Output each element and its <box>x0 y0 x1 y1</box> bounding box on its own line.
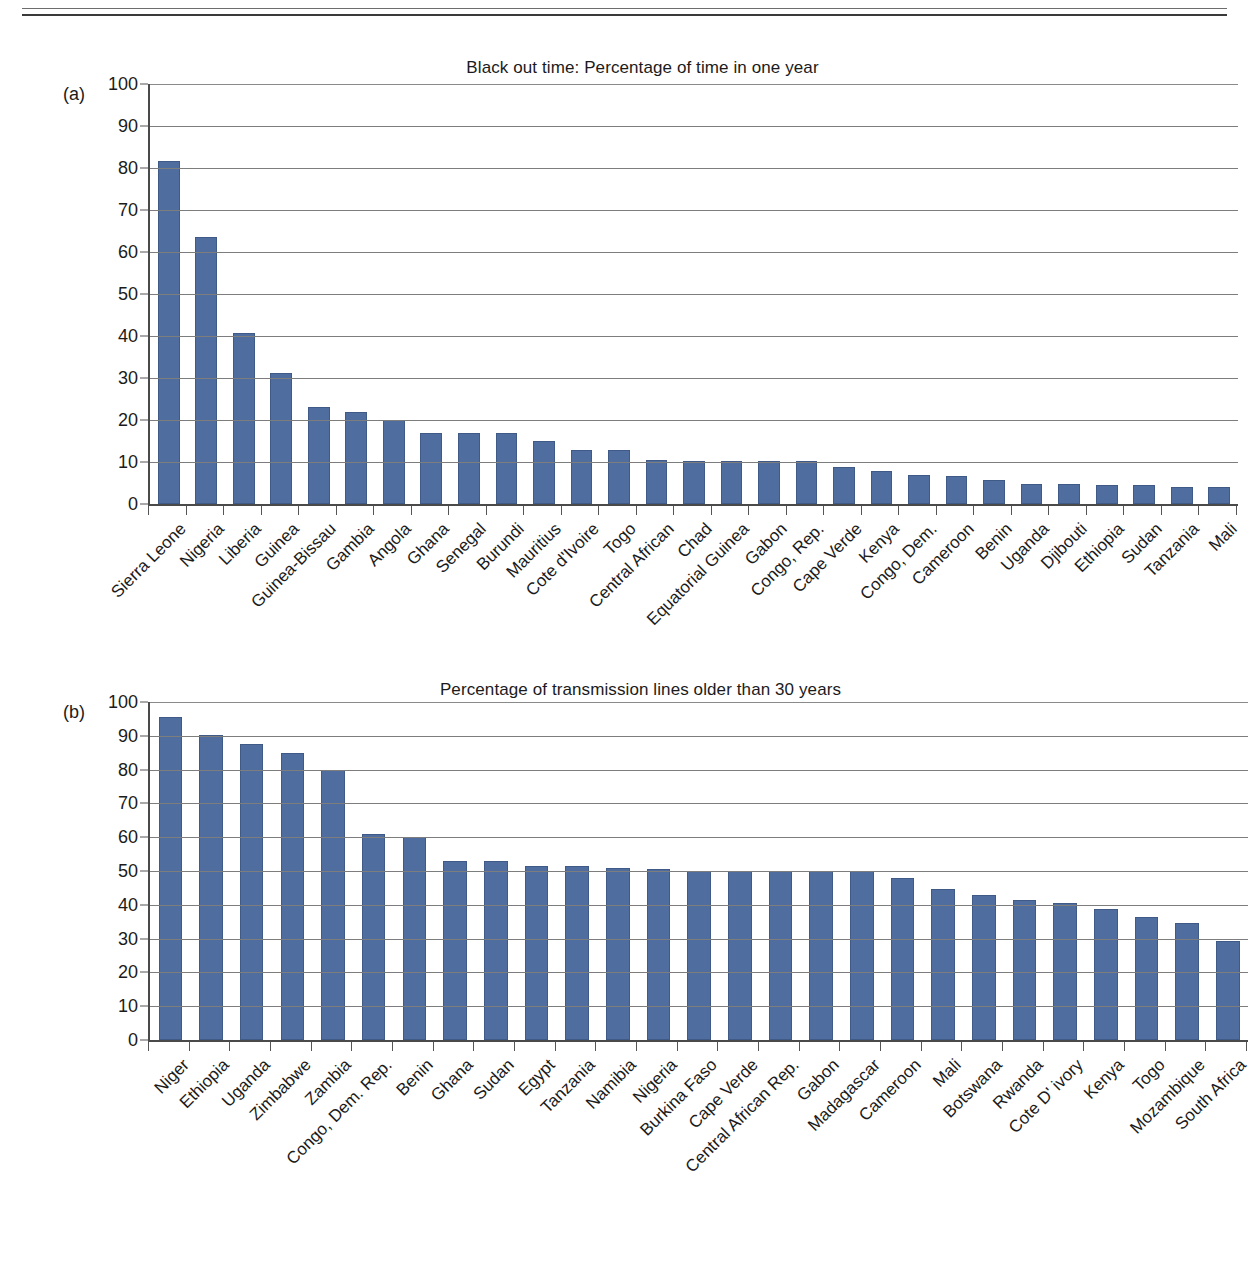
x-tick <box>336 506 337 515</box>
header-rule-thin <box>22 8 1227 9</box>
bar[interactable] <box>721 461 743 504</box>
x-tick <box>270 1042 271 1051</box>
y-tick-mark <box>140 1040 148 1041</box>
bar[interactable] <box>458 433 480 504</box>
bar[interactable] <box>362 834 386 1040</box>
figure-a-panel-letter: (a) <box>63 84 85 105</box>
x-tick <box>898 506 899 515</box>
y-tick-mark <box>140 168 148 169</box>
x-tick <box>373 506 374 515</box>
bar[interactable] <box>233 333 255 504</box>
y-tick-label: 90 <box>118 727 138 745</box>
bar[interactable] <box>809 871 833 1040</box>
bar[interactable] <box>1096 485 1118 504</box>
bar[interactable] <box>850 871 874 1040</box>
y-tick-mark <box>140 769 148 770</box>
bar[interactable] <box>606 868 630 1040</box>
bar[interactable] <box>199 735 223 1040</box>
x-tick <box>636 1042 637 1051</box>
bar[interactable] <box>571 450 593 504</box>
bar[interactable] <box>608 450 630 504</box>
bar[interactable] <box>871 471 893 504</box>
x-tick <box>1123 506 1124 515</box>
bar[interactable] <box>1094 909 1118 1040</box>
gridline <box>150 84 1238 85</box>
gridline <box>150 939 1248 940</box>
y-tick-mark <box>140 1006 148 1007</box>
bar[interactable] <box>496 433 518 504</box>
x-tick <box>298 506 299 515</box>
x-tick <box>186 506 187 515</box>
bar[interactable] <box>1058 484 1080 504</box>
y-tick-label: 30 <box>118 930 138 948</box>
bar[interactable] <box>683 461 705 504</box>
y-tick-mark <box>140 938 148 939</box>
y-tick-label: 10 <box>118 997 138 1015</box>
bar[interactable] <box>533 441 555 504</box>
bar[interactable] <box>728 871 752 1040</box>
bar[interactable] <box>1021 484 1043 504</box>
y-tick-label: 20 <box>118 411 138 429</box>
bar[interactable] <box>159 717 183 1040</box>
x-tick <box>311 1042 312 1051</box>
y-tick-label: 0 <box>128 495 138 513</box>
bar[interactable] <box>240 744 264 1040</box>
x-tick <box>514 1042 515 1051</box>
bar[interactable] <box>891 878 915 1040</box>
y-tick-label: 40 <box>118 896 138 914</box>
bar[interactable] <box>646 460 668 504</box>
bar[interactable] <box>931 889 955 1040</box>
bar[interactable] <box>908 475 930 504</box>
y-tick-label: 80 <box>118 159 138 177</box>
bar[interactable] <box>1216 941 1240 1040</box>
y-tick-mark <box>140 126 148 127</box>
bar[interactable] <box>1013 900 1037 1040</box>
bar[interactable] <box>443 861 467 1040</box>
bar[interactable] <box>687 871 711 1040</box>
bar[interactable] <box>308 407 330 504</box>
x-axis-category-label: Kenya <box>1081 1056 1127 1102</box>
x-tick <box>598 506 599 515</box>
x-tick <box>1011 506 1012 515</box>
x-tick <box>823 506 824 515</box>
x-axis-category-label: Sudan <box>470 1056 517 1103</box>
bar[interactable] <box>565 866 589 1040</box>
bar[interactable] <box>758 461 780 504</box>
bar[interactable] <box>1208 487 1230 504</box>
bar[interactable] <box>833 467 855 504</box>
x-tick <box>1198 506 1199 515</box>
x-tick <box>677 1042 678 1051</box>
bar[interactable] <box>158 161 180 504</box>
gridline <box>150 378 1238 379</box>
x-tick <box>673 506 674 515</box>
gridline <box>150 420 1238 421</box>
x-tick <box>921 1042 922 1051</box>
x-tick <box>1124 1042 1125 1051</box>
gridline <box>150 702 1248 703</box>
bar[interactable] <box>525 866 549 1040</box>
x-tick <box>261 506 262 515</box>
gridline <box>150 168 1238 169</box>
x-tick <box>392 1042 393 1051</box>
x-tick <box>223 506 224 515</box>
bar[interactable] <box>1133 485 1155 504</box>
bar[interactable] <box>769 871 793 1040</box>
bar[interactable] <box>972 895 996 1040</box>
bar[interactable] <box>946 476 968 504</box>
bar[interactable] <box>484 861 508 1040</box>
bar[interactable] <box>796 461 818 504</box>
bar[interactable] <box>1175 923 1199 1040</box>
bar[interactable] <box>345 412 367 504</box>
bar[interactable] <box>195 237 217 504</box>
bar[interactable] <box>420 433 442 504</box>
bar[interactable] <box>281 753 305 1040</box>
bar[interactable] <box>1135 917 1159 1040</box>
bar[interactable] <box>647 869 671 1040</box>
figure-a-title: Black out time: Percentage of time in on… <box>0 58 1245 78</box>
x-tick <box>936 506 937 515</box>
bar[interactable] <box>270 373 292 504</box>
gridline <box>150 294 1238 295</box>
x-tick <box>595 1042 596 1051</box>
bar[interactable] <box>983 480 1005 504</box>
bar[interactable] <box>1171 487 1193 504</box>
